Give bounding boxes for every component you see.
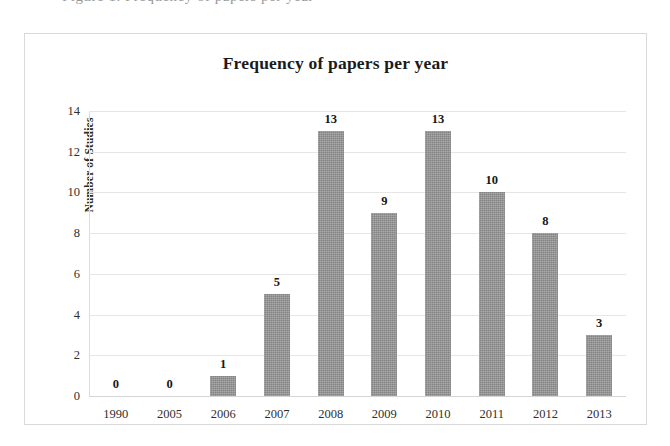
bar[interactable] bbox=[586, 335, 612, 396]
bar-value-label: 5 bbox=[274, 275, 280, 290]
bar-value-label: 1 bbox=[220, 357, 226, 372]
bar[interactable] bbox=[264, 294, 290, 396]
bar-slot[interactable]: 92009 bbox=[358, 111, 412, 396]
bar-value-label: 10 bbox=[485, 173, 498, 188]
bar-slot[interactable]: 82012 bbox=[519, 111, 573, 396]
x-axis-tick-label: 2012 bbox=[533, 407, 558, 422]
bar-slot[interactable]: 12006 bbox=[196, 111, 250, 396]
bar[interactable] bbox=[318, 131, 344, 396]
x-axis-tick-label: 2011 bbox=[479, 407, 504, 422]
chart-page: Figure 1. Frequency of papers per year F… bbox=[0, 0, 670, 446]
bar-value-label: 3 bbox=[596, 316, 602, 331]
chart-title: Frequency of papers per year bbox=[25, 53, 646, 74]
y-axis-tick-label: 12 bbox=[68, 144, 81, 159]
bar[interactable] bbox=[371, 213, 397, 396]
x-axis-tick-label: 2013 bbox=[587, 407, 612, 422]
y-axis-tick-label: 14 bbox=[68, 104, 81, 119]
bar-slot[interactable]: 02005 bbox=[143, 111, 197, 396]
y-axis-tick-label: 4 bbox=[74, 307, 80, 322]
y-axis-tick-label: 2 bbox=[74, 348, 80, 363]
bar[interactable] bbox=[532, 233, 558, 396]
bar-value-label: 13 bbox=[324, 112, 337, 127]
x-axis-tick-label: 2008 bbox=[318, 407, 343, 422]
cut-off-caption-sliver: Figure 1. Frequency of papers per year bbox=[0, 0, 670, 7]
bar[interactable] bbox=[425, 131, 451, 396]
bar[interactable] bbox=[479, 192, 505, 396]
bar-value-label: 0 bbox=[166, 377, 172, 392]
plot-area: 02468101214 0199002005120065200713200892… bbox=[89, 111, 626, 396]
y-axis-tick-label: 0 bbox=[74, 389, 80, 404]
bar-value-label: 9 bbox=[381, 194, 387, 209]
y-axis-tick-label: 6 bbox=[74, 266, 80, 281]
bar-value-label: 8 bbox=[542, 214, 548, 229]
bar-slot[interactable]: 102011 bbox=[465, 111, 519, 396]
bar-slot[interactable]: 132008 bbox=[304, 111, 358, 396]
bar-slot[interactable]: 32013 bbox=[572, 111, 626, 396]
bar-value-label: 13 bbox=[432, 112, 445, 127]
x-axis-tick-label: 1990 bbox=[103, 407, 128, 422]
y-axis-tick-label: 10 bbox=[68, 185, 81, 200]
chart-frame: Frequency of papers per year Number of S… bbox=[24, 33, 647, 425]
bar-slot[interactable]: 52007 bbox=[250, 111, 304, 396]
bar[interactable] bbox=[210, 376, 236, 396]
gridline bbox=[89, 396, 626, 397]
y-axis-tick-label: 8 bbox=[74, 226, 80, 241]
x-axis-tick-label: 2006 bbox=[211, 407, 236, 422]
x-axis-tick-label: 2010 bbox=[426, 407, 451, 422]
x-axis-tick-label: 2009 bbox=[372, 407, 397, 422]
bar-slot[interactable]: 132010 bbox=[411, 111, 465, 396]
cut-off-caption-text: Figure 1. Frequency of papers per year bbox=[62, 0, 314, 5]
bar-slot[interactable]: 01990 bbox=[89, 111, 143, 396]
x-axis-tick-label: 2005 bbox=[157, 407, 182, 422]
bar-value-label: 0 bbox=[113, 377, 119, 392]
x-axis-tick-label: 2007 bbox=[264, 407, 289, 422]
